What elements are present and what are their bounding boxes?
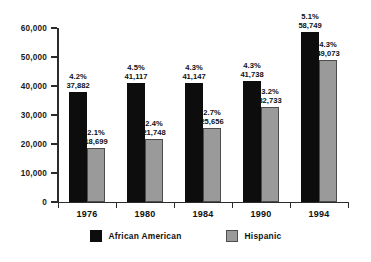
bar-percent-text: 4.3% — [240, 61, 263, 70]
y-axis-tick — [51, 114, 57, 115]
bar-count-text: 21,748 — [142, 128, 165, 137]
bar-count-text: 41,147 — [182, 72, 205, 81]
bar-value-label: 4.3%41,738 — [240, 61, 263, 80]
bar — [69, 92, 87, 202]
bar — [203, 128, 221, 202]
bar — [127, 83, 145, 202]
bar-value-label: 2.4%21,748 — [142, 119, 165, 138]
y-axis-tick-label: 60,000 — [21, 24, 47, 33]
y-axis-tick — [51, 56, 57, 57]
x-axis-category-label: 1980 — [134, 209, 155, 219]
bar-count-text: 32,733 — [258, 96, 281, 105]
bar-chart: 010,00020,00030,00040,00050,00060,000 19… — [0, 0, 371, 262]
bar-count-text: 25,656 — [200, 117, 223, 126]
bar-percent-text: 2.1% — [84, 128, 107, 137]
bar-value-label: 4.3%41,147 — [182, 63, 205, 82]
bar — [319, 60, 337, 202]
x-axis-category-label: 1994 — [308, 209, 329, 219]
x-axis-tick — [290, 202, 291, 208]
bar-percent-text: 5.1% — [298, 12, 321, 21]
bar-count-text: 41,117 — [125, 72, 148, 81]
bar — [87, 148, 105, 202]
y-axis-tick-label: 0 — [42, 198, 47, 207]
y-axis-tick-label: 10,000 — [21, 169, 47, 178]
bar-value-label: 4.5%41,117 — [125, 63, 148, 82]
bar-count-text: 58,749 — [298, 21, 321, 30]
legend-swatch — [226, 230, 238, 242]
bar-count-text: 41,738 — [240, 70, 263, 79]
bar — [261, 107, 279, 202]
y-axis-tick — [51, 85, 57, 86]
legend-label: African American — [109, 231, 182, 241]
bar-count-text: 37,882 — [66, 81, 89, 90]
x-axis-tick — [232, 202, 233, 208]
bar-count-text: 49,073 — [316, 49, 339, 58]
bar — [185, 83, 203, 202]
bar-percent-text: 2.7% — [200, 108, 223, 117]
x-axis-category-label: 1990 — [250, 209, 271, 219]
bar-value-label: 4.3%49,073 — [316, 40, 339, 59]
y-axis-tick-label: 50,000 — [21, 53, 47, 62]
bar-percent-text: 4.2% — [66, 72, 89, 81]
bar-percent-text: 3.2% — [258, 87, 281, 96]
y-axis-tick-label: 40,000 — [21, 82, 47, 91]
legend-entry: Hispanic — [226, 230, 282, 242]
y-axis-tick — [51, 27, 57, 28]
x-axis-category-label: 1976 — [76, 209, 97, 219]
bar-value-label: 5.1%58,749 — [298, 12, 321, 31]
x-axis-category-label: 1984 — [192, 209, 213, 219]
bar-value-label: 4.2%37,882 — [66, 72, 89, 91]
chart-legend: African AmericanHispanic — [0, 230, 371, 242]
bar — [145, 139, 163, 202]
x-axis-tick — [348, 202, 349, 208]
bar-value-label: 2.7%25,656 — [200, 108, 223, 127]
y-axis-tick — [51, 172, 57, 173]
bar-percent-text: 4.3% — [316, 40, 339, 49]
y-axis-tick — [51, 201, 57, 202]
legend-entry: African American — [90, 230, 182, 242]
bar-percent-text: 4.3% — [182, 63, 205, 72]
bar-count-text: 18,699 — [84, 137, 107, 146]
bar-value-label: 2.1%18,699 — [84, 128, 107, 147]
x-axis-tick — [116, 202, 117, 208]
y-axis-tick-label: 20,000 — [21, 140, 47, 149]
bar-value-label: 3.2%32,733 — [258, 87, 281, 106]
x-axis-tick — [174, 202, 175, 208]
y-axis-tick — [51, 143, 57, 144]
legend-swatch — [90, 230, 102, 242]
y-axis-tick-label: 30,000 — [21, 111, 47, 120]
bar-percent-text: 2.4% — [142, 119, 165, 128]
legend-label: Hispanic — [245, 231, 282, 241]
x-axis-tick — [58, 202, 59, 208]
bar-percent-text: 4.5% — [125, 63, 148, 72]
